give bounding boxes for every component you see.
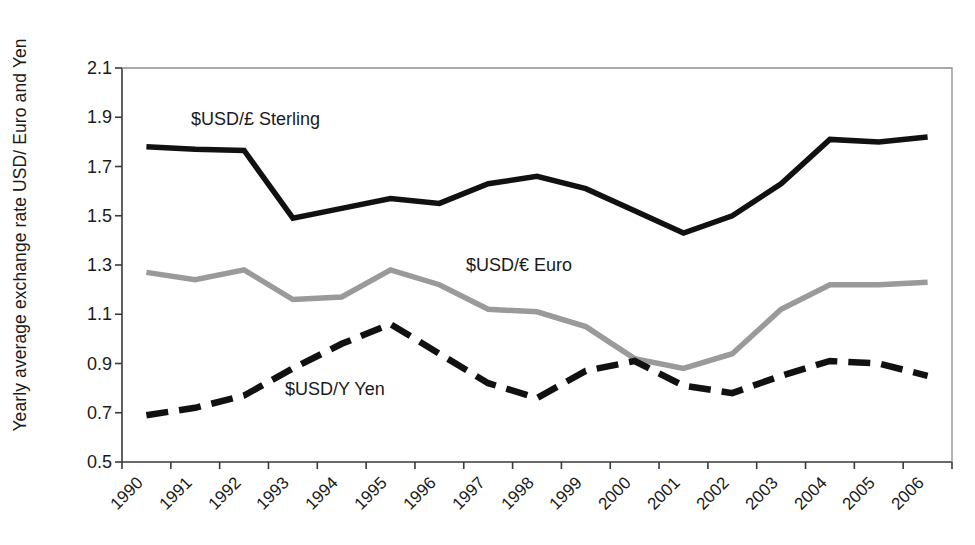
series-label: $USD/£ Sterling (191, 110, 320, 128)
series-line (146, 137, 927, 233)
series-label: $USD/€ Euro (466, 256, 572, 274)
series-label: $USD/Y Yen (285, 380, 385, 398)
series-line (146, 270, 927, 369)
series-lines (146, 137, 927, 415)
series-line (146, 324, 927, 415)
chart-figure: Yearly average exchange rate USD/ Euro a… (0, 0, 975, 545)
